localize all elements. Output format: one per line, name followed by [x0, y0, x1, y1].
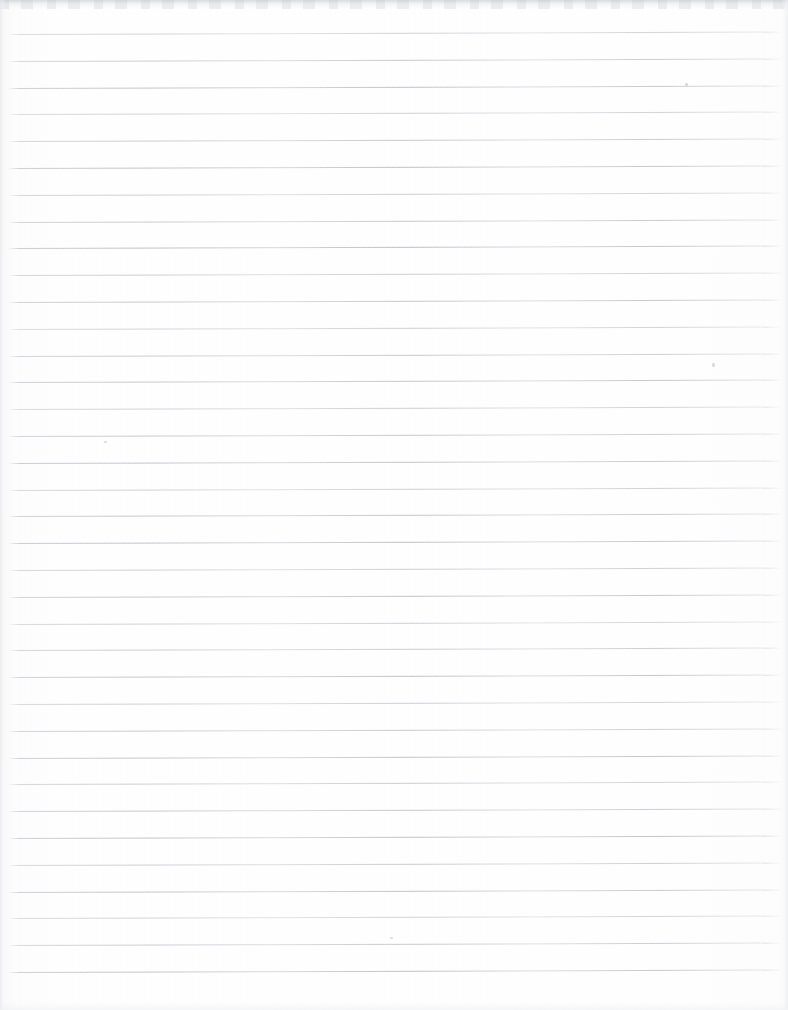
ruled-line: [8, 782, 783, 786]
ruled-line: [8, 675, 783, 679]
ruled-line: [8, 380, 783, 384]
ruled-line: [8, 969, 783, 973]
ruled-line: [8, 514, 783, 518]
ruled-line: [8, 192, 783, 196]
ruled-line: [8, 541, 783, 545]
ruled-line: [8, 594, 783, 598]
ruled-line: [8, 326, 783, 330]
ruled-line: [8, 273, 783, 277]
ruled-lines-layer: [0, 0, 788, 1010]
ruled-line: [8, 648, 783, 652]
ruled-line: [8, 916, 783, 920]
ruled-line: [8, 112, 783, 116]
scanned-page: [0, 0, 788, 1010]
ruled-line: [8, 219, 783, 223]
ruled-line: [8, 31, 783, 35]
ruled-line: [8, 835, 783, 839]
ruled-line: [8, 433, 783, 437]
ruled-line: [8, 621, 783, 625]
ruled-line: [8, 407, 783, 411]
ruled-line: [8, 943, 783, 947]
ruled-line: [8, 728, 783, 732]
ruled-line: [8, 299, 783, 303]
ruled-line: [8, 353, 783, 357]
ruled-line: [8, 58, 783, 62]
ruled-line: [8, 755, 783, 759]
ruled-line: [8, 567, 783, 571]
ruled-line: [8, 165, 783, 169]
ruled-line: [8, 809, 783, 813]
ruled-line: [8, 701, 783, 705]
ruled-line: [8, 862, 783, 866]
ruled-line: [8, 139, 783, 143]
ruled-line: [8, 487, 783, 491]
ruled-line: [8, 246, 783, 250]
ruled-line: [8, 85, 783, 89]
ruled-line: [8, 460, 783, 464]
ruled-line: [8, 889, 783, 893]
